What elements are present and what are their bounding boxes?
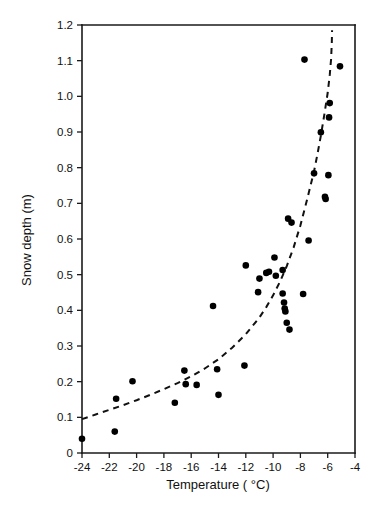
y-tick-label: 1.0 — [57, 90, 73, 102]
x-tick-label: -20 — [128, 461, 145, 473]
y-tick-label: 0.7 — [57, 197, 73, 209]
data-point — [325, 172, 332, 179]
y-tick-label: 0.2 — [57, 376, 73, 388]
data-point — [215, 392, 222, 399]
x-tick-label: -14 — [210, 461, 227, 473]
data-point — [182, 381, 189, 388]
y-tick-label: 0.5 — [57, 269, 73, 281]
x-tick-label: -16 — [183, 461, 200, 473]
data-point — [311, 170, 318, 177]
figure-container: 00.10.20.30.40.50.60.70.80.91.01.11.2 -2… — [0, 0, 381, 513]
x-tick-label: -22 — [101, 461, 118, 473]
x-tick-label: -6 — [323, 461, 333, 473]
y-tick-label: 1.1 — [57, 55, 73, 67]
y-tick-label: 1.2 — [57, 19, 73, 31]
data-point — [300, 291, 307, 298]
data-point — [337, 63, 344, 70]
y-tick-label: 0.1 — [57, 411, 73, 423]
data-point — [241, 362, 248, 369]
x-tick-label: -24 — [74, 461, 91, 473]
data-point — [255, 289, 262, 296]
x-tick-label: -18 — [156, 461, 173, 473]
data-point — [181, 367, 188, 374]
data-point — [79, 435, 86, 442]
data-point — [286, 326, 293, 333]
data-point — [256, 275, 263, 282]
y-tick-label: 0.6 — [57, 233, 73, 245]
data-point — [318, 129, 325, 136]
y-axis-title: Snow depth (m) — [19, 194, 34, 286]
data-point — [283, 320, 290, 327]
data-point — [193, 382, 200, 389]
data-point — [214, 366, 221, 373]
data-point — [305, 237, 312, 244]
y-tick-label: 0.8 — [57, 162, 73, 174]
y-tick-label: 0.4 — [57, 304, 74, 316]
data-point — [279, 290, 286, 297]
data-point — [282, 308, 289, 315]
data-point — [111, 428, 118, 435]
y-tick-label: 0.3 — [57, 340, 73, 352]
data-point — [243, 262, 250, 269]
data-point — [266, 269, 273, 276]
data-point — [301, 56, 308, 63]
data-point — [273, 272, 280, 279]
data-point — [326, 114, 333, 121]
data-point — [281, 299, 288, 306]
data-point — [285, 215, 292, 222]
data-point — [129, 378, 136, 385]
data-point — [172, 399, 179, 406]
x-tick-label: -8 — [295, 461, 305, 473]
data-point — [113, 395, 120, 402]
x-tick-label: -10 — [265, 461, 282, 473]
data-point — [326, 100, 333, 107]
data-point — [322, 196, 329, 203]
data-point — [210, 303, 217, 310]
plot-background — [0, 0, 381, 513]
x-axis-title: Temperature ( °C) — [166, 477, 269, 492]
y-tick-label: 0.9 — [57, 126, 73, 138]
data-point — [279, 267, 286, 274]
y-tick-label: 0 — [67, 447, 73, 459]
x-tick-label: -12 — [237, 461, 254, 473]
data-point — [271, 254, 278, 261]
scatter-plot: 00.10.20.30.40.50.60.70.80.91.01.11.2 -2… — [0, 0, 381, 513]
x-tick-label: -4 — [350, 461, 361, 473]
